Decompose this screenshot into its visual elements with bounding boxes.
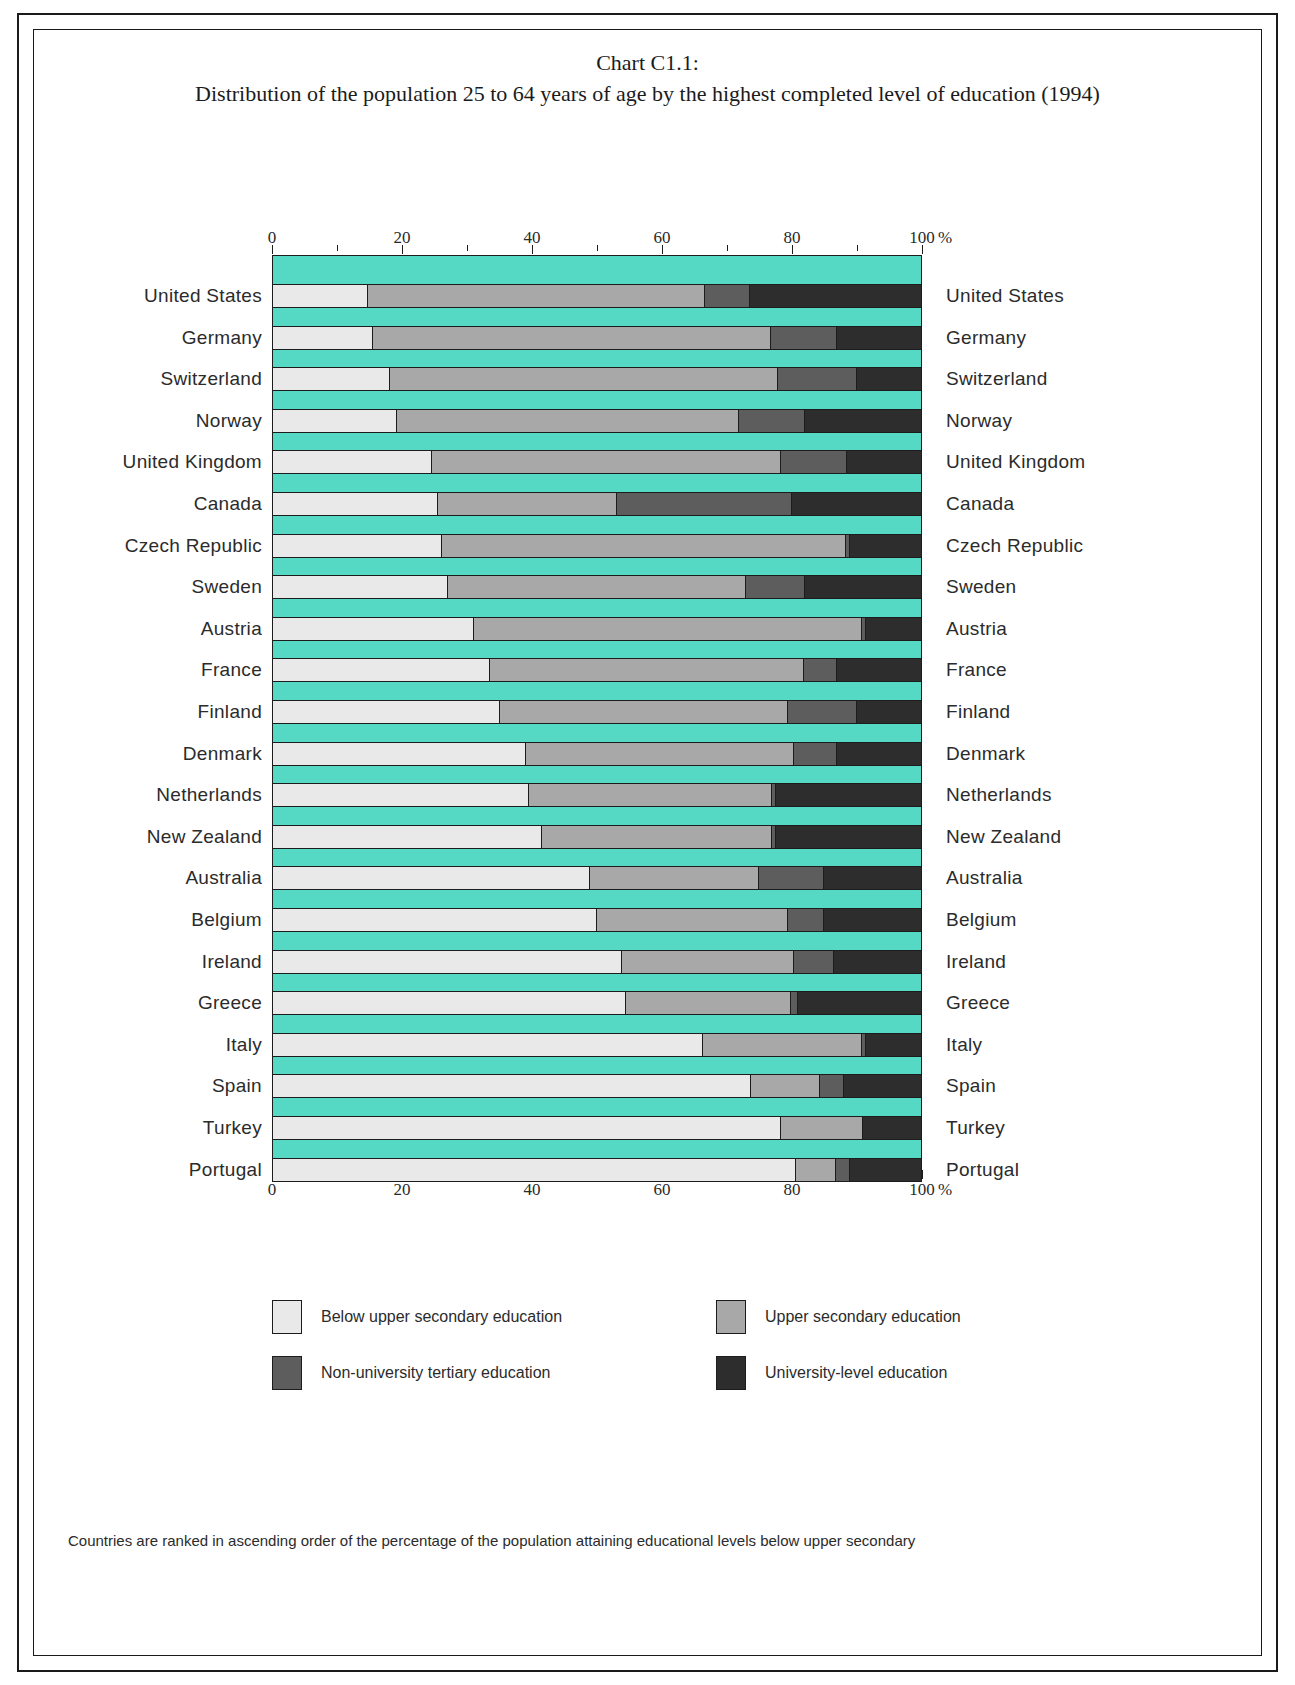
country-label-right: Italy <box>946 1034 982 1056</box>
country-label-left: New Zealand <box>147 826 262 848</box>
bar-segment <box>775 826 921 848</box>
country-label-right: Ireland <box>946 951 1006 973</box>
bar-segment <box>367 285 703 307</box>
bar-segment <box>819 1075 843 1097</box>
bar-row <box>272 950 922 974</box>
bar-segment <box>803 659 836 681</box>
legend-item: University-level education <box>716 1356 947 1390</box>
axis-tick-minor <box>727 245 728 251</box>
country-label-right: Belgium <box>946 909 1017 931</box>
country-label-right: United Kingdom <box>946 451 1085 473</box>
bar-segment <box>273 659 489 681</box>
axis-tick-label: 20 <box>394 1180 411 1200</box>
country-label-right: New Zealand <box>946 826 1061 848</box>
bar-segment <box>273 1034 702 1056</box>
chart-footnote: Countries are ranked in ascending order … <box>68 1532 915 1549</box>
legend-label: Below upper secondary education <box>321 1308 562 1326</box>
stacked-bar <box>272 1158 922 1182</box>
stacked-bar <box>272 866 922 890</box>
bar-segment <box>616 493 791 515</box>
bar-segment <box>833 951 921 973</box>
bar-segment <box>525 743 794 765</box>
stacked-bar <box>272 1074 922 1098</box>
bar-segment <box>273 618 473 640</box>
bar-segment <box>780 451 846 473</box>
stacked-bar <box>272 1033 922 1057</box>
bar-segment <box>865 618 921 640</box>
bar-row <box>272 284 922 308</box>
stacked-bar <box>272 991 922 1015</box>
bar-segment <box>793 743 836 765</box>
bar-segment <box>273 1075 750 1097</box>
bar-segment <box>797 992 921 1014</box>
bar-row <box>272 367 922 391</box>
bar-segment <box>836 327 922 349</box>
legend-label: Non-university tertiary education <box>321 1364 550 1382</box>
bar-segment <box>273 743 525 765</box>
axis-tick-minor <box>597 245 598 251</box>
bar-segment <box>596 909 787 931</box>
bar-segment <box>804 576 921 598</box>
country-label-left: Greece <box>198 992 262 1014</box>
axis-tick-label: 100 <box>909 228 935 248</box>
stacked-bar <box>272 658 922 682</box>
bar-row <box>272 866 922 890</box>
bar-segment <box>431 451 780 473</box>
country-label-right: Czech Republic <box>946 535 1083 557</box>
country-label-left: Norway <box>196 410 262 432</box>
bar-segment <box>273 909 596 931</box>
axis-tick-label: 60 <box>654 1180 671 1200</box>
bar-segment <box>273 451 431 473</box>
stacked-bar-chart: 020406080100 020406080100 % % United Sta… <box>0 0 1295 1685</box>
bar-row <box>272 908 922 932</box>
axis-tick-minor <box>857 245 858 251</box>
bar-row <box>272 1074 922 1098</box>
stacked-bar <box>272 326 922 350</box>
bar-segment <box>273 1117 780 1139</box>
axis-tick-label: 40 <box>524 1180 541 1200</box>
bar-segment <box>273 535 441 557</box>
bar-segment <box>396 410 739 432</box>
legend-label: University-level education <box>765 1364 947 1382</box>
bar-segment <box>856 701 922 723</box>
bar-segment <box>273 867 589 889</box>
bar-segment <box>750 1075 819 1097</box>
bar-row <box>272 783 922 807</box>
bar-row <box>272 700 922 724</box>
stacked-bar <box>272 783 922 807</box>
bar-segment <box>791 493 921 515</box>
legend-swatch <box>716 1356 746 1390</box>
bar-segment <box>856 368 922 390</box>
bar-row <box>272 409 922 433</box>
bar-segment <box>835 1159 849 1181</box>
bar-segment <box>775 784 921 806</box>
country-label-right: Switzerland <box>946 368 1048 390</box>
bar-segment <box>770 327 836 349</box>
bar-segment <box>273 701 499 723</box>
stacked-bar <box>272 950 922 974</box>
country-label-left: Portugal <box>189 1159 262 1181</box>
bar-row <box>272 1033 922 1057</box>
bar-segment <box>804 410 921 432</box>
bar-row <box>272 492 922 516</box>
bar-segment <box>441 535 845 557</box>
bar-segment <box>447 576 745 598</box>
country-label-right: Canada <box>946 493 1014 515</box>
bar-segment <box>843 1075 921 1097</box>
country-label-left: Germany <box>182 327 262 349</box>
country-label-left: Ireland <box>202 951 262 973</box>
stacked-bar <box>272 742 922 766</box>
bar-row <box>272 1116 922 1140</box>
country-label-left: Turkey <box>203 1117 262 1139</box>
bar-segment <box>273 826 541 848</box>
bar-row <box>272 575 922 599</box>
bar-segment <box>489 659 803 681</box>
country-label-left: United Kingdom <box>123 451 262 473</box>
country-label-right: United States <box>946 285 1064 307</box>
bar-segment <box>793 951 833 973</box>
stacked-bar <box>272 1116 922 1140</box>
axis-tick-label: 80 <box>784 1180 801 1200</box>
country-label-right: Spain <box>946 1075 996 1097</box>
bar-row <box>272 617 922 641</box>
stacked-bar <box>272 450 922 474</box>
